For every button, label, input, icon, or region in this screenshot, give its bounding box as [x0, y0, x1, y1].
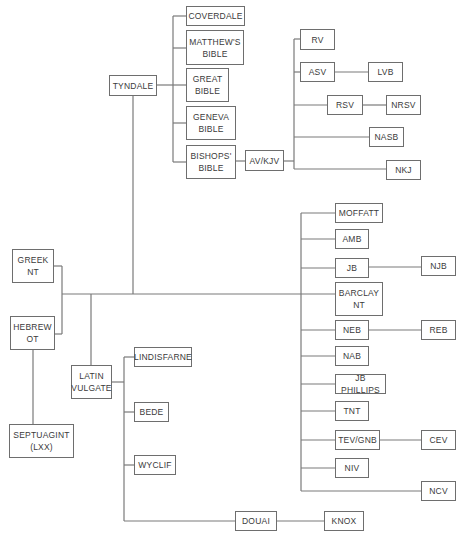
node-amb: AMB — [335, 229, 369, 249]
node-tyndale: TYNDALE — [109, 75, 157, 96]
node-septuagint: SEPTUAGINT (LXX) — [9, 424, 74, 458]
node-knox: KNOX — [324, 511, 364, 531]
node-jb-phillips: JB PHILLIPS — [335, 374, 386, 394]
node-njb: NJB — [421, 256, 456, 276]
node-moffatt: MOFFATT — [335, 203, 383, 223]
node-ncv: NCV — [421, 481, 456, 501]
node-bishops-bible: BISHOPS' BIBLE — [186, 145, 236, 179]
node-nasb: NASB — [369, 127, 404, 147]
node-latin-vulgate: LATIN VULGATE — [71, 365, 112, 399]
node-lindisfarne: LINDISFARNE — [134, 347, 192, 367]
node-nrsv: NRSV — [386, 95, 421, 115]
node-rv: RV — [300, 29, 335, 50]
node-nab: NAB — [335, 346, 369, 366]
node-av-kjv: AV/KJV — [245, 150, 284, 171]
node-wyclif: WYCLIF — [134, 455, 176, 475]
node-matthews-bible: MATTHEW'S BIBLE — [186, 30, 244, 65]
node-barclay-nt: BARCLAY NT — [335, 282, 383, 316]
node-neb: NEB — [335, 320, 369, 340]
node-rsv: RSV — [327, 95, 363, 115]
node-hebrew-ot: HEBREW OT — [10, 316, 55, 350]
node-tev-gnb: TEV/GNB — [335, 430, 380, 450]
node-nkj: NKJ — [386, 160, 421, 180]
node-great-bible: GREAT BIBLE — [186, 68, 229, 102]
node-tnt: TNT — [335, 401, 369, 421]
node-lvb: LVB — [368, 62, 403, 82]
node-asv: ASV — [300, 62, 335, 82]
node-niv: NIV — [335, 458, 369, 478]
node-douai: DOUAI — [235, 511, 277, 531]
node-jb: JB — [335, 258, 369, 278]
node-geneva-bible: GENEVA BIBLE — [186, 106, 236, 140]
node-coverdale: COVERDALE — [186, 6, 245, 26]
node-bede: BEDE — [134, 402, 169, 422]
node-cev: CEV — [421, 430, 456, 450]
node-greek-nt: GREEK NT — [12, 249, 54, 283]
node-reb: REB — [421, 320, 456, 340]
